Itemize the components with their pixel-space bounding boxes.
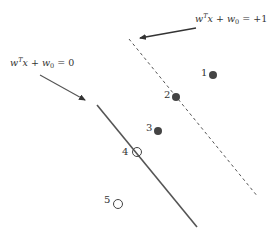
point-4 (133, 148, 142, 157)
point-label-4: 4 (122, 146, 128, 157)
eq-x: x (207, 13, 212, 24)
boundary-arrow (40, 75, 85, 100)
eq-plus: + (31, 57, 39, 68)
margin-line (129, 39, 258, 197)
point-1 (209, 71, 217, 79)
point-label-5: 5 (104, 194, 110, 205)
margin-arrow (140, 28, 196, 38)
eq-rhs: = +1 (242, 13, 267, 24)
point-3 (154, 127, 162, 135)
boundary-equation-label: wTx + w0 = 0 (10, 56, 74, 70)
point-label-2: 2 (164, 89, 170, 100)
point-5 (114, 200, 123, 209)
diagram-canvas (0, 0, 276, 240)
point-2 (172, 93, 180, 101)
eq-w: w (195, 13, 203, 24)
eq-w0: w (42, 57, 50, 68)
margin-equation-label: wTx + w0 = +1 (195, 12, 267, 26)
eq-plus: + (216, 13, 224, 24)
point-label-1: 1 (201, 67, 207, 78)
eq-w0: w (227, 13, 235, 24)
eq-sub0: 0 (235, 18, 239, 26)
point-label-3: 3 (146, 122, 152, 133)
eq-rhs: = 0 (57, 57, 74, 68)
eq-sub0: 0 (50, 62, 54, 70)
eq-w: w (10, 57, 18, 68)
eq-x: x (22, 57, 27, 68)
